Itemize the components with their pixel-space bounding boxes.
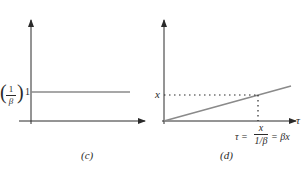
one-over-beta: 1 β <box>6 85 16 106</box>
frac-den: β <box>9 97 13 106</box>
linear-line <box>164 86 291 121</box>
y-marker-x: x <box>155 89 160 100</box>
caption-d: (d) <box>220 150 233 161</box>
equation-prefix: τ = <box>235 132 248 142</box>
eq-num: x <box>259 123 263 133</box>
panel-c-axes <box>19 20 145 124</box>
paren-right: ) <box>17 82 24 102</box>
y-value-label: 1 <box>25 87 30 97</box>
caption-c: (c) <box>81 150 93 161</box>
frac-num: 1 <box>9 85 14 94</box>
eq-den: 1/β <box>255 136 268 146</box>
equation-fraction: x 1/β <box>254 123 268 146</box>
x-axis-label-tau: τ <box>296 115 300 126</box>
panel-d-axes <box>162 20 296 124</box>
equation-suffix: = βx <box>271 132 290 142</box>
